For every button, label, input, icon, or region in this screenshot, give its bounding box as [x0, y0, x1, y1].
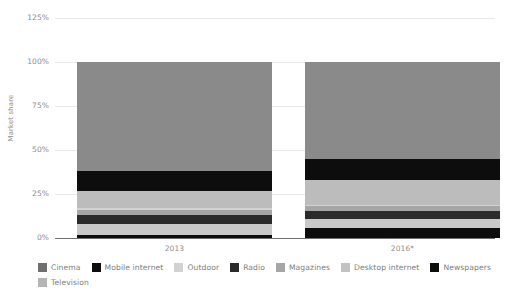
- legend-item-cinema[interactable]: Cinema: [38, 261, 81, 274]
- legend-item-newspapers[interactable]: Newspapers: [430, 261, 491, 274]
- legend-label: Desktop internet: [354, 264, 419, 272]
- bar-segment-desktop-internet[interactable]: [305, 219, 500, 229]
- legend-item-outdoor[interactable]: Outdoor: [174, 261, 219, 274]
- legend-label: Outdoor: [187, 264, 219, 272]
- legend-item-radio[interactable]: Radio: [230, 261, 265, 274]
- legend-swatch-icon: [276, 263, 285, 272]
- chart-legend: CinemaMobile internetOutdoorRadioMagazin…: [38, 261, 504, 289]
- chart-container: Market share 0%25%50%75%100%125%20132016…: [0, 0, 511, 295]
- legend-label: Radio: [243, 264, 265, 272]
- legend-label: Cinema: [51, 264, 81, 272]
- y-axis-tick-50%: 50%: [32, 146, 49, 154]
- legend-label: Newspapers: [443, 264, 491, 272]
- bar-segment-radio[interactable]: [305, 211, 500, 219]
- bar-segment-outdoor[interactable]: [305, 180, 500, 205]
- legend-swatch-icon: [430, 263, 439, 272]
- legend-label: Mobile internet: [105, 264, 164, 272]
- bar-segment-desktop-internet[interactable]: [77, 224, 272, 235]
- legend-swatch-icon: [92, 263, 101, 272]
- legend-item-television[interactable]: Television: [38, 276, 89, 289]
- legend-swatch-icon: [38, 278, 47, 287]
- legend-label: Magazines: [289, 264, 330, 272]
- y-axis-tick-25%: 25%: [32, 190, 49, 198]
- bar-segment-newspapers[interactable]: [305, 228, 500, 238]
- y-axis-tick-0%: 0%: [37, 234, 49, 242]
- bar-segment-mobile-internet[interactable]: [77, 171, 272, 191]
- bar-segment-mobile-internet[interactable]: [305, 159, 500, 180]
- bar-segment-television[interactable]: [305, 62, 500, 159]
- legend-item-magazines[interactable]: Magazines: [276, 261, 330, 274]
- y-axis-tick-75%: 75%: [32, 102, 49, 110]
- legend-swatch-icon: [174, 263, 183, 272]
- x-axis-label-2013: 2013: [77, 244, 272, 253]
- y-axis-tick-100%: 100%: [27, 58, 49, 66]
- plot-area: 0%25%50%75%100%125%20132016*: [55, 18, 495, 238]
- x-axis-label-2016: 2016*: [305, 244, 500, 253]
- gridline-125%: [55, 18, 495, 19]
- bar-segment-outdoor[interactable]: [77, 191, 272, 208]
- y-axis-tick-125%: 125%: [27, 14, 49, 22]
- legend-label: Television: [51, 279, 89, 287]
- bar-segment-television[interactable]: [77, 62, 272, 171]
- legend-swatch-icon: [341, 263, 350, 272]
- legend-swatch-icon: [38, 263, 47, 272]
- y-axis-title: Market share: [7, 95, 15, 142]
- bar-2016[interactable]: 2016*: [305, 62, 500, 238]
- bar-segment-newspapers[interactable]: [77, 235, 272, 238]
- legend-swatch-icon: [230, 263, 239, 272]
- bar-segment-radio[interactable]: [77, 215, 272, 224]
- bar-2013[interactable]: 2013: [77, 62, 272, 238]
- legend-item-mobile-internet[interactable]: Mobile internet: [92, 261, 164, 274]
- axis-baseline: [55, 238, 495, 239]
- legend-item-desktop-internet[interactable]: Desktop internet: [341, 261, 419, 274]
